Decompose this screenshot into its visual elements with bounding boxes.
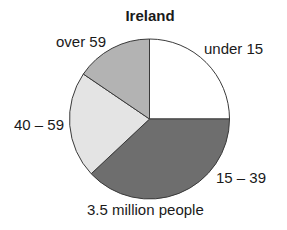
label-40-59: 40 – 59: [14, 116, 64, 133]
footer-caption: 3.5 million people: [87, 201, 204, 218]
label-under-15: under 15: [204, 40, 263, 57]
pie-chart: [0, 0, 287, 230]
label-over-59: over 59: [56, 33, 106, 50]
label-15-39: 15 – 39: [216, 169, 266, 186]
